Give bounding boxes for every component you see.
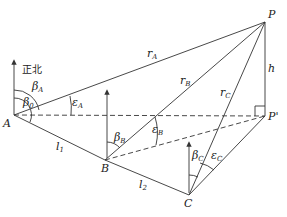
line-rB [105, 22, 265, 160]
label-rB: rB [180, 74, 190, 88]
arc-epsC [200, 163, 214, 170]
north-label: 正北 [22, 64, 42, 75]
label-l2: l2 [139, 178, 148, 192]
label-betaA: βA [31, 80, 43, 94]
label-betaB: βB [113, 131, 126, 145]
point-A: A [2, 117, 11, 130]
line-rA [14, 22, 265, 115]
point-B: B [100, 162, 109, 175]
point-C: C [184, 197, 193, 210]
line-A-Pprime [14, 115, 265, 116]
label-l1: l1 [56, 140, 64, 154]
line-rC [189, 22, 265, 195]
label-h: h [268, 62, 275, 75]
geometry-diagram: 正北 P P' A B C h rA rB rC l1 l2 βA β0 βB … [0, 0, 287, 217]
label-rC: rC [220, 86, 231, 100]
point-P: P [267, 8, 276, 21]
point-P-prime: P' [267, 110, 278, 123]
diagram-canvas: 正北 P P' A B C h rA rB rC l1 l2 βA β0 βB … [0, 0, 287, 217]
label-epsA: εA [72, 96, 83, 110]
label-betaC: βC [191, 149, 204, 163]
label-rA: rA [147, 47, 157, 61]
label-epsB: εB [152, 123, 163, 137]
label-epsC: εC [211, 149, 223, 163]
line-l2 [105, 160, 189, 195]
right-angle-mark [255, 106, 265, 116]
line-B-Pprime [105, 116, 265, 160]
arc-betaC [189, 175, 198, 177]
